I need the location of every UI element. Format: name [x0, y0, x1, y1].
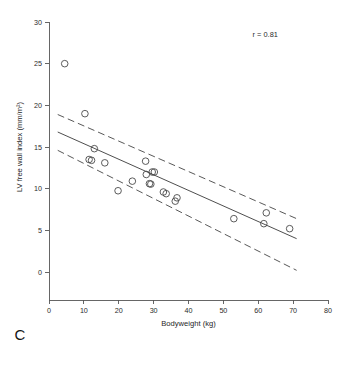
- y-tick-label: 0: [38, 268, 42, 277]
- x-tick-label: 30: [150, 306, 158, 315]
- y-tick-label: 15: [34, 143, 42, 152]
- x-axis-title: Bodyweight (kg): [161, 319, 216, 328]
- correlation-annotation: r = 0.81: [253, 30, 278, 39]
- x-tick-label: 10: [80, 306, 88, 315]
- scatter-plot: 05101520253001020304050607080Bodyweight …: [0, 0, 347, 368]
- data-point-marker: [231, 215, 238, 222]
- x-tick-label: 20: [115, 306, 123, 315]
- x-tick-label: 0: [47, 306, 51, 315]
- y-tick-label: 5: [38, 226, 42, 235]
- data-point-marker: [115, 187, 122, 194]
- data-point-marker: [263, 210, 270, 217]
- x-tick-label: 40: [185, 306, 193, 315]
- data-point-marker: [102, 160, 109, 167]
- data-point-marker: [129, 178, 136, 185]
- x-tick-label: 80: [324, 306, 332, 315]
- y-tick-label: 30: [34, 18, 42, 27]
- x-tick-label: 60: [254, 306, 262, 315]
- y-tick-label: 25: [34, 59, 42, 68]
- confidence-band-lower: [58, 150, 297, 270]
- data-point-marker: [142, 158, 149, 165]
- y-axis-title: LV free wall index (mm/m²): [15, 101, 24, 192]
- panel-label: C: [15, 326, 26, 343]
- x-tick-label: 50: [219, 306, 227, 315]
- y-tick-label: 20: [34, 101, 42, 110]
- y-tick-label: 10: [34, 184, 42, 193]
- x-tick-label: 70: [289, 306, 297, 315]
- data-point-marker: [61, 60, 68, 67]
- data-point-marker: [286, 225, 293, 232]
- data-point-marker: [82, 110, 89, 117]
- figure-panel-c: 05101520253001020304050607080Bodyweight …: [0, 0, 347, 368]
- confidence-band-upper: [58, 115, 297, 219]
